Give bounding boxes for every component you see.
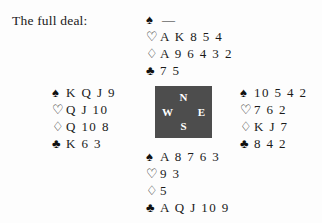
hand-north-diamonds-line: ♢ A 9 6 4 3 2: [146, 45, 233, 62]
club-icon: ♣: [146, 62, 159, 79]
compass-label-north: N: [180, 92, 188, 103]
hand-south-hearts: 9 3: [159, 165, 180, 182]
compass-label-east: E: [198, 107, 205, 118]
diamond-icon: ♢: [240, 118, 253, 135]
spade-icon: ♠: [146, 11, 159, 28]
hand-west-diamonds-line: ♢ Q 10 8: [52, 118, 116, 135]
heart-icon: ♡: [52, 101, 65, 118]
bridge-deal-diagram: The full deal: ♠ — ♡ A K 8 5 4 ♢ A 9 6 4…: [0, 0, 322, 223]
page-title: The full deal:: [12, 13, 88, 29]
spade-icon: ♠: [52, 84, 65, 101]
hand-east-diamonds: K J 7: [253, 118, 288, 135]
hand-north-spades: —: [159, 11, 175, 28]
hand-east-hearts-line: ♡ 7 6 2: [240, 101, 307, 118]
hand-north-hearts-line: ♡ A K 8 5 4: [146, 28, 233, 45]
heart-icon: ♡: [146, 165, 159, 182]
hand-south-diamonds: 5: [159, 182, 168, 199]
hand-west: ♠ K Q J 9 ♡ Q J 10 ♢ Q 10 8 ♣ K 6 3: [52, 84, 116, 152]
hand-east-clubs-line: ♣ 8 4 2: [240, 135, 307, 152]
hand-east-clubs: 8 4 2: [253, 135, 287, 152]
heart-icon: ♡: [240, 101, 253, 118]
hand-west-spades: K Q J 9: [65, 84, 116, 101]
hand-west-clubs-line: ♣ K 6 3: [52, 135, 116, 152]
hand-south-diamonds-line: ♢ 5: [146, 182, 230, 199]
hand-north-clubs-line: ♣ 7 5: [146, 62, 233, 79]
hand-east: ♠ 10 5 4 2 ♡ 7 6 2 ♢ K J 7 ♣ 8 4 2: [240, 84, 307, 152]
hand-south-clubs-line: ♣ A Q J 10 9: [146, 199, 230, 216]
diamond-icon: ♢: [146, 182, 159, 199]
hand-east-spades-line: ♠ 10 5 4 2: [240, 84, 307, 101]
club-icon: ♣: [240, 135, 253, 152]
diamond-icon: ♢: [146, 45, 159, 62]
hand-west-clubs: K 6 3: [65, 135, 102, 152]
compass-label-west: W: [162, 107, 173, 118]
spade-icon: ♠: [146, 148, 159, 165]
hand-south-hearts-line: ♡ 9 3: [146, 165, 230, 182]
hand-west-diamonds: Q 10 8: [65, 118, 110, 135]
hand-west-hearts-line: ♡ Q J 10: [52, 101, 116, 118]
diamond-icon: ♢: [52, 118, 65, 135]
hand-south: ♠ A 8 7 6 3 ♡ 9 3 ♢ 5 ♣ A Q J 10 9: [146, 148, 230, 216]
hand-east-hearts: 7 6 2: [253, 101, 287, 118]
spade-icon: ♠: [240, 84, 253, 101]
hand-south-spades-line: ♠ A 8 7 6 3: [146, 148, 230, 165]
compass-box: N W E S: [155, 86, 212, 138]
club-icon: ♣: [146, 199, 159, 216]
club-icon: ♣: [52, 135, 65, 152]
hand-north-diamonds: A 9 6 4 3 2: [159, 45, 233, 62]
hand-north-hearts: A K 8 5 4: [159, 28, 223, 45]
hand-east-spades: 10 5 4 2: [253, 84, 307, 101]
hand-south-spades: A 8 7 6 3: [159, 148, 220, 165]
hand-north-clubs: 7 5: [159, 62, 180, 79]
hand-north: ♠ — ♡ A K 8 5 4 ♢ A 9 6 4 3 2 ♣ 7 5: [146, 11, 233, 79]
hand-east-diamonds-line: ♢ K J 7: [240, 118, 307, 135]
hand-south-clubs: A Q J 10 9: [159, 199, 230, 216]
hand-west-hearts: Q J 10: [65, 101, 108, 118]
heart-icon: ♡: [146, 28, 159, 45]
hand-north-spades-line: ♠ —: [146, 11, 233, 28]
hand-west-spades-line: ♠ K Q J 9: [52, 84, 116, 101]
compass-label-south: S: [180, 121, 186, 132]
